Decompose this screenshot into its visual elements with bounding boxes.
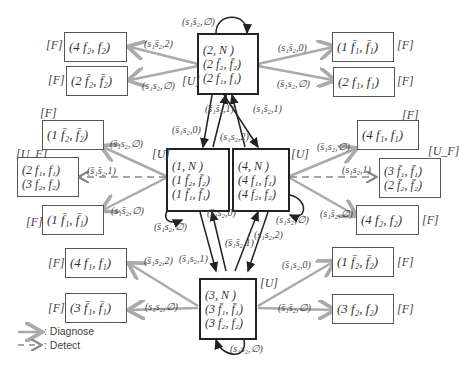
state-3-tag: [U] xyxy=(260,276,278,291)
edge-label: (s₁s̄₂,∅) xyxy=(320,208,353,219)
outcome-tag: [F] xyxy=(422,213,439,228)
legend-detect-label: : Detect xyxy=(44,339,80,351)
edge-label: (s̄₁s₂,∅) xyxy=(154,221,187,232)
edge-label: (s̄₁s̄₂,1) xyxy=(87,165,116,176)
state-2-tag: [U] xyxy=(182,74,200,89)
outcome-text: (3 f̄₁, f̄₁) xyxy=(70,301,111,315)
outcome-box[interactable]: (1 f̄₂, f̄₂) xyxy=(332,247,394,277)
state-4[interactable]: (4, N ) (4 f₁, f₁) (4 f₂, f₂) xyxy=(232,148,290,212)
outcome-tag: [F] xyxy=(397,302,414,317)
edge-label: (s̄₁s₂,∅) xyxy=(277,78,310,89)
outcome-box[interactable]: (2 f₁, f₁) (3 f₂, f₂) xyxy=(17,157,79,197)
outcome-text: (2 f₁, f₁) xyxy=(22,163,60,177)
outcome-box[interactable]: (1 f̄₁, f̄₁) xyxy=(332,32,394,62)
state-4-line: (4, N ) xyxy=(238,159,269,173)
edge-label: (s̄₁s₂,∅) xyxy=(110,138,143,149)
outcome-box[interactable]: (4 f₂, f₂) xyxy=(64,32,127,62)
outcome-text: (3 f̄₁, f̄₁) xyxy=(384,164,422,178)
outcome-text: (3 f₂, f₂) xyxy=(337,302,378,316)
state-1-line: (1 f̄₁, f̄₁) xyxy=(172,187,210,201)
edge-label: (s̄₁s₂,∅) xyxy=(317,141,350,152)
state-2-line: (2 f₁, f₁) xyxy=(203,71,241,85)
outcome-tag: [F] xyxy=(48,73,65,88)
edge-label: (s₁s₂,∅) xyxy=(145,301,178,312)
outcome-box[interactable]: (1 f̄₁, f̄₁) xyxy=(42,205,104,235)
edge-label: (s₁s̄₂,1) xyxy=(253,103,282,114)
edge-label: (s₁s₂,∅) xyxy=(276,214,309,225)
edge-label: (s₁s₂,1) xyxy=(342,164,371,175)
edge-label: (s̄₁s₂,0) xyxy=(172,124,201,135)
outcome-text: (4 f₁, f₁) xyxy=(362,128,403,142)
edge-label: (s̄₁s₂,0) xyxy=(207,207,236,218)
outcome-tag: [F] xyxy=(397,255,414,270)
state-1-line: (1 f̄₂, f̄₂) xyxy=(172,173,210,187)
outcome-box[interactable]: (4 f₁, f₁) xyxy=(357,120,419,150)
edge-label: (s̄₁s̄₂,1) xyxy=(205,103,234,114)
outcome-box[interactable]: (2 f̄₂, f̄₂) xyxy=(66,66,128,96)
outcome-text: (3 f₂, f₂) xyxy=(22,177,60,191)
state-2[interactable]: (2, N ) (2 f̄₂, f̄₂) (2 f₁, f₁) xyxy=(197,33,259,95)
outcome-tag: [F] xyxy=(397,74,414,89)
outcome-text: (4 f₂, f₂) xyxy=(361,213,402,227)
outcome-box[interactable]: (3 f₂, f₂) xyxy=(332,294,394,324)
state-4-tag: [U] xyxy=(291,147,309,162)
outcome-tag: [F] xyxy=(397,38,414,53)
state-3-line: (3 f̄₁, f̄₁) xyxy=(205,302,243,316)
state-2-line: (2, N ) xyxy=(203,43,234,57)
edge-label: (s₁s̄₂,∅) xyxy=(111,205,144,216)
state-1-tag: [U] xyxy=(152,147,170,162)
outcome-box[interactable]: (4 f₂, f₂) xyxy=(356,205,419,235)
outcome-text: (2 f̄₂, f̄₂) xyxy=(71,74,112,88)
edge-label: (s₁s₂,∅) xyxy=(230,343,263,354)
outcome-tag: [F] xyxy=(48,301,65,316)
outcome-box[interactable]: (3 f̄₁, f̄₁) xyxy=(65,293,127,323)
outcome-tag: [F] xyxy=(40,106,57,121)
edge-label: (s₁s̄₂,2) xyxy=(144,38,173,49)
state-3-line: (3 f₂, f₂) xyxy=(205,316,243,330)
edge-label: (s₁s̄₂,0) xyxy=(278,42,307,53)
legend-diagnose-label: : Diagnose xyxy=(44,325,94,337)
edge-label: (s̄₁s̄₂,∅) xyxy=(278,302,311,313)
state-4-line: (4 f₂, f₂) xyxy=(238,187,276,201)
edge-label: (s₁s₂,2) xyxy=(254,229,283,240)
outcome-text: (2 f₁, f₁) xyxy=(338,75,379,89)
state-3-line: (3, N ) xyxy=(205,288,236,302)
state-3[interactable]: (3, N ) (3 f̄₁, f̄₁) (3 f₂, f₂) xyxy=(199,278,257,340)
outcome-box[interactable]: (4 f₁, f₁) xyxy=(65,248,127,278)
state-4-line: (4 f₁, f₁) xyxy=(238,173,276,187)
outcome-text: (1 f̄₁, f̄₁) xyxy=(337,40,378,54)
edge-label: (s̄₁s̄₂,1) xyxy=(225,237,254,248)
state-1[interactable]: (1, N ) (1 f̄₂, f̄₂) (1 f̄₁, f̄₁) xyxy=(166,148,230,212)
edge-label: (s̄₁s₂,1) xyxy=(179,253,208,264)
edge-label: (s₁s₂,∅) xyxy=(142,80,175,91)
outcome-text: (1 f̄₂, f̄₂) xyxy=(337,255,378,269)
outcome-box[interactable]: (2 f₁, f₁) xyxy=(333,67,395,97)
edge-label: (s₁s₂,2) xyxy=(220,131,249,142)
outcome-box[interactable]: (3 f̄₁, f̄₁) (2 f̄₂, f̄₂) xyxy=(379,158,441,198)
outcome-tag: [F] xyxy=(46,38,63,53)
outcome-text: (1 f̄₂, f̄₂) xyxy=(47,128,88,142)
outcome-tag: [U_F] xyxy=(428,144,459,159)
state-2-line: (2 f̄₂, f̄₂) xyxy=(203,57,241,71)
outcome-box[interactable]: (1 f̄₂, f̄₂) xyxy=(42,120,104,150)
outcome-text: (1 f̄₁, f̄₁) xyxy=(47,213,88,227)
outcome-text: (4 f₁, f₁) xyxy=(70,256,111,270)
outcome-tag: [F] xyxy=(48,256,65,271)
outcome-text: (2 f̄₂, f̄₂) xyxy=(384,178,422,192)
state-1-line: (1, N ) xyxy=(172,159,203,173)
outcome-tag: [F] xyxy=(26,215,43,230)
edge-label: (s₁s̄₂,∅) xyxy=(182,16,215,27)
outcome-text: (4 f₂, f₂) xyxy=(69,40,110,54)
edge-label: (s̄₁s₂,2) xyxy=(144,255,173,266)
edge-label: (s̄₁s₂,0) xyxy=(282,259,311,270)
